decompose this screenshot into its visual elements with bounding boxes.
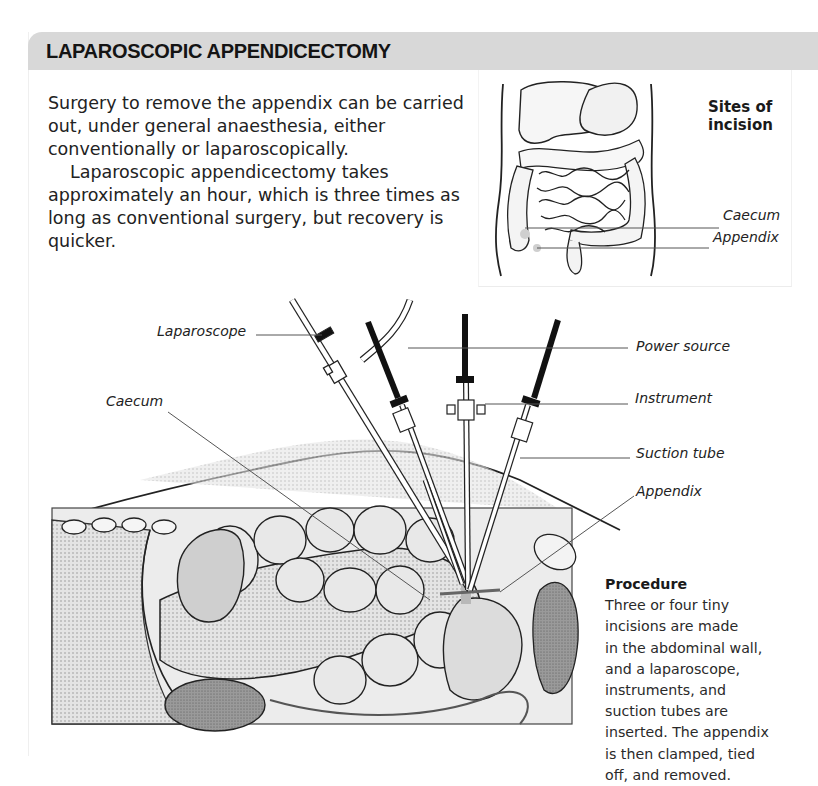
label-suction-tube: Suction tube [636, 445, 725, 461]
page-title: LAPAROSCOPIC APPENDICECTOMY [46, 40, 391, 63]
label-instrument: Instrument [635, 390, 712, 406]
procedure-box: Procedure Three or four tiny incisions a… [605, 574, 805, 786]
inset-title: Sites of incision [708, 98, 773, 134]
intro-paragraph-1: Surgery to remove the appendix can be ca… [48, 92, 468, 161]
intro-paragraph-2: Laparoscopic appendicectomy takes approx… [48, 161, 468, 253]
procedure-title: Procedure [605, 574, 805, 595]
intro-text: Surgery to remove the appendix can be ca… [48, 92, 468, 253]
label-caecum: Caecum [106, 393, 163, 409]
inset-figure-sites-of-incision: Sites of incision Caecum Appendix [478, 70, 792, 287]
label-appendix: Appendix [636, 483, 702, 499]
inset-title-line-2: incision [708, 116, 773, 134]
label-laparoscope: Laparoscope [157, 323, 246, 339]
inset-title-line-1: Sites of [708, 98, 773, 116]
procedure-text: Three or four tiny incisions are made in… [605, 595, 805, 786]
label-power-source: Power source [636, 338, 730, 354]
inset-label-caecum: Caecum [723, 207, 780, 223]
inset-label-appendix: Appendix [713, 229, 779, 245]
header-bar: LAPAROSCOPIC APPENDICECTOMY [28, 32, 818, 70]
